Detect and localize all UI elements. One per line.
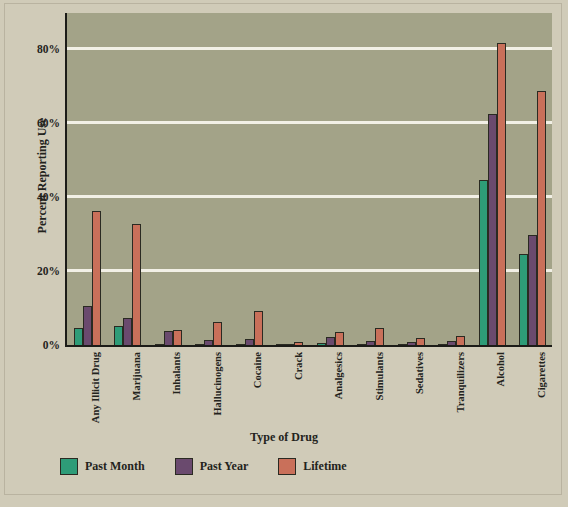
legend-swatch bbox=[278, 458, 296, 475]
x-tick-label: Any Illicit Drug bbox=[90, 352, 101, 472]
legend-swatch bbox=[60, 458, 78, 475]
legend-label: Lifetime bbox=[303, 459, 346, 474]
x-tick-label: Sedatives bbox=[414, 352, 425, 472]
legend-label: Past Year bbox=[200, 459, 249, 474]
x-tick-label: Alcohol bbox=[495, 352, 506, 472]
legend-item: Lifetime bbox=[278, 458, 346, 475]
legend-label: Past Month bbox=[85, 459, 145, 474]
x-tick-label: Crack bbox=[293, 352, 304, 472]
legend: Past MonthPast YearLifetime bbox=[60, 458, 347, 475]
x-tick-label: Hallucinogens bbox=[212, 352, 223, 472]
x-tick-label: Marijuana bbox=[131, 352, 142, 472]
x-tick-label: Analgesics bbox=[333, 352, 344, 472]
legend-item: Past Month bbox=[60, 458, 145, 475]
chart-figure: 0%20%40%60%80% Percent Reporting Use Any… bbox=[0, 0, 568, 507]
x-tick-label: Tranquilizers bbox=[455, 352, 466, 472]
x-tick-label: Stimulants bbox=[374, 352, 385, 472]
x-tick-label: Cigarettes bbox=[536, 352, 547, 472]
x-tick-label: Inhalants bbox=[171, 352, 182, 472]
x-tick-label: Cocaine bbox=[252, 352, 263, 472]
legend-item: Past Year bbox=[175, 458, 249, 475]
x-axis-title: Type of Drug bbox=[0, 430, 568, 445]
legend-swatch bbox=[175, 458, 193, 475]
